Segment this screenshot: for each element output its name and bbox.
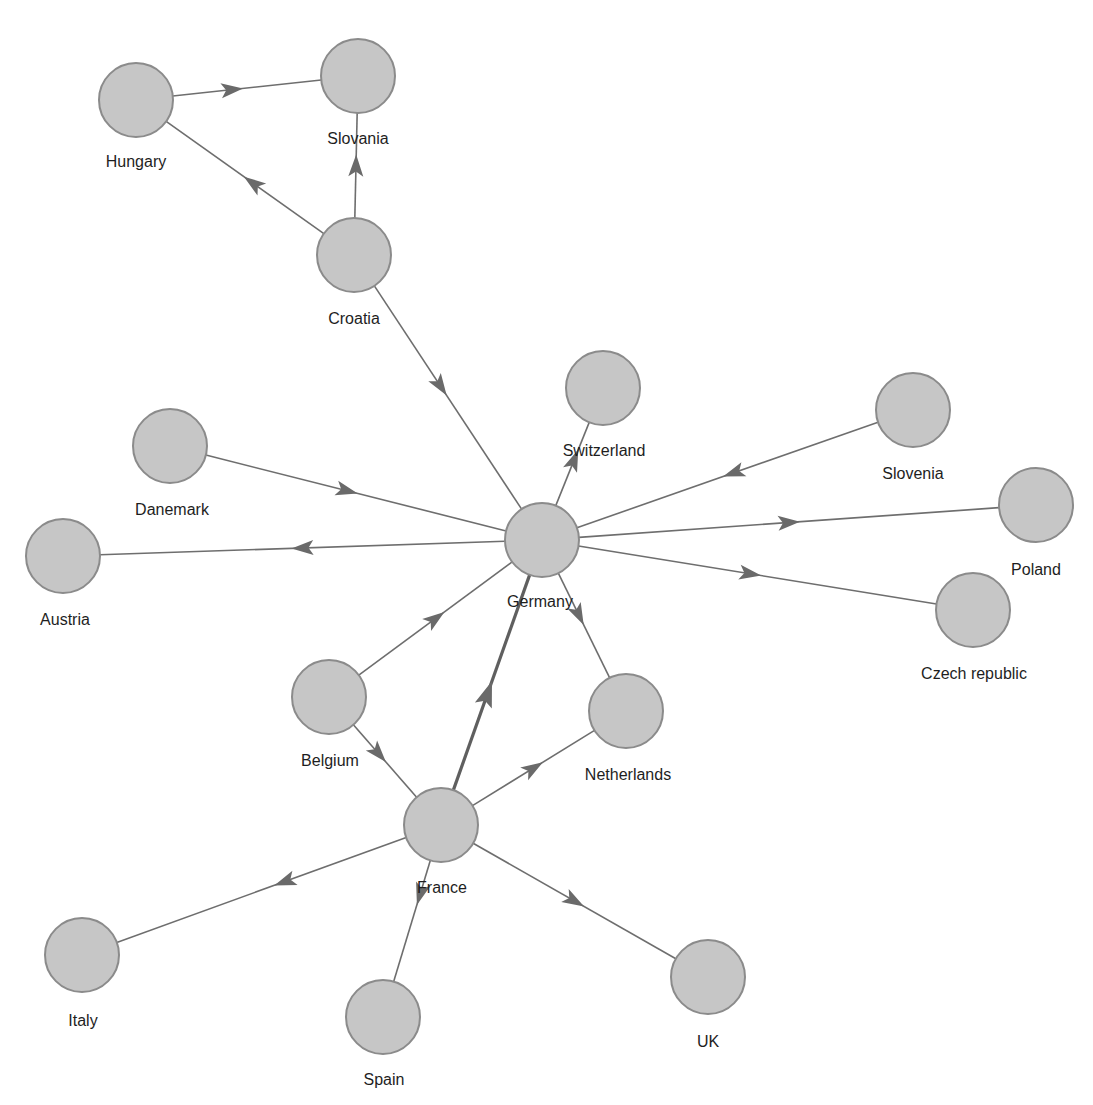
node-germany[interactable] (505, 503, 579, 577)
node-label-austria: Austria (40, 611, 90, 628)
node-label-uk: UK (697, 1033, 720, 1050)
node-poland[interactable] (999, 468, 1073, 542)
node-spain[interactable] (346, 980, 420, 1054)
labels-layer: HungarySlovaniaCroatiaSwitzerlandSloveni… (40, 130, 1061, 1088)
node-czech[interactable] (936, 573, 1010, 647)
node-uk[interactable] (671, 940, 745, 1014)
node-label-france: France (417, 879, 467, 896)
arrowhead-icon (428, 373, 446, 396)
node-label-belgium: Belgium (301, 752, 359, 769)
node-france[interactable] (404, 788, 478, 862)
node-label-germany: Germany (507, 593, 573, 610)
node-label-netherlands: Netherlands (585, 766, 671, 783)
network-diagram: HungarySlovaniaCroatiaSwitzerlandSloveni… (0, 0, 1093, 1105)
arrowhead-icon (422, 612, 444, 631)
node-croatia[interactable] (317, 218, 391, 292)
edge-hungary-to-slovania (173, 80, 321, 96)
node-label-czech: Czech republic (921, 665, 1027, 682)
arrowhead-icon (244, 177, 266, 196)
node-austria[interactable] (26, 519, 100, 593)
node-label-danemark: Danemark (135, 501, 210, 518)
node-label-spain: Spain (364, 1071, 405, 1088)
nodes-layer (26, 39, 1073, 1054)
arrowhead-icon (520, 762, 543, 780)
node-label-italy: Italy (68, 1012, 97, 1029)
arrowhead-icon (366, 741, 386, 762)
node-hungary[interactable] (99, 63, 173, 137)
node-label-slovenia: Slovenia (882, 465, 943, 482)
node-netherlands[interactable] (589, 674, 663, 748)
node-label-hungary: Hungary (106, 153, 166, 170)
node-belgium[interactable] (292, 660, 366, 734)
edge-france-to-italy (117, 838, 406, 943)
node-switzerland[interactable] (566, 351, 640, 425)
node-slovenia[interactable] (876, 373, 950, 447)
edge-croatia-to-germany (374, 286, 521, 509)
node-danemark[interactable] (133, 409, 207, 483)
node-label-switzerland: Switzerland (563, 442, 646, 459)
arrowhead-icon (561, 889, 584, 906)
node-label-poland: Poland (1011, 561, 1061, 578)
node-slovania[interactable] (321, 39, 395, 113)
node-label-croatia: Croatia (328, 310, 380, 327)
node-italy[interactable] (45, 918, 119, 992)
edge-germany-to-netherlands (558, 573, 609, 678)
node-label-slovania: Slovania (327, 130, 388, 147)
